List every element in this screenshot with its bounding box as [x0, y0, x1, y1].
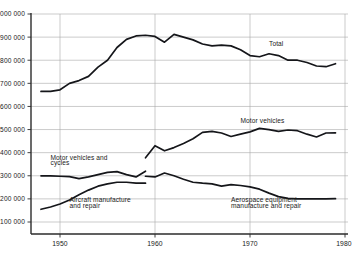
x-axis-tick-label: 1950 [52, 240, 68, 247]
y-axis-tick-label: 700 000 [0, 80, 25, 87]
y-axis-tick-label: 100 000 [0, 218, 25, 225]
annotation-label-total: Total [269, 40, 284, 47]
y-axis-tick-label: 400 000 [0, 149, 25, 156]
y-axis-tick-label: 300 000 [0, 172, 25, 179]
chart-container: 100 000200 000300 000400 000500 000600 0… [0, 0, 358, 262]
y-axis-tick-label: 500 000 [0, 126, 25, 133]
x-axis-tick-label: 1960 [147, 240, 163, 247]
annotation-label-motor-vehicles: Motor vehicles [241, 117, 286, 124]
x-axis-tick-label: 1980 [336, 240, 352, 247]
y-axis-tick-label: 900 000 [0, 34, 25, 41]
annotation-label-motor-vehicles-and-cycles-line2: cycles [51, 159, 71, 167]
y-axis-tick-label: 600 000 [0, 103, 25, 110]
x-axis-tick-label: 1970 [242, 240, 258, 247]
y-axis-tick-label: 800 000 [0, 57, 25, 64]
y-axis-tick-label: 1 000 000 [0, 10, 25, 17]
line-chart: 100 000200 000300 000400 000500 000600 0… [0, 0, 358, 262]
annotation-label-aircraft-line2: and repair [70, 202, 101, 210]
annotation-label-aerospace-line2: manufacture and repair [231, 202, 302, 210]
y-axis-tick-label: 200 000 [0, 195, 25, 202]
